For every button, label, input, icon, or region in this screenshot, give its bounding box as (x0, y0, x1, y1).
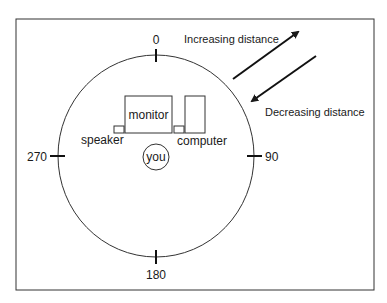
angle-label-0: 0 (153, 33, 160, 47)
right-speaker (174, 126, 184, 133)
speaker-label: speaker (81, 133, 124, 147)
angle-label-90: 90 (265, 150, 279, 164)
computer-label: computer (177, 134, 227, 148)
decreasing-distance-label: Decreasing distance (265, 106, 365, 118)
increasing-distance-label: Increasing distance (184, 33, 279, 45)
left-speaker (114, 126, 124, 133)
computer-box (185, 96, 205, 133)
listening-position-diagram: 0 180 270 90 monitor computer speaker yo… (0, 0, 387, 303)
angle-label-270: 270 (27, 150, 47, 164)
diagram-frame (16, 19, 374, 290)
decreasing-distance-arrow (252, 56, 316, 101)
angle-label-180: 180 (146, 268, 166, 282)
listener-label: you (146, 150, 165, 164)
monitor-label: monitor (128, 108, 168, 122)
